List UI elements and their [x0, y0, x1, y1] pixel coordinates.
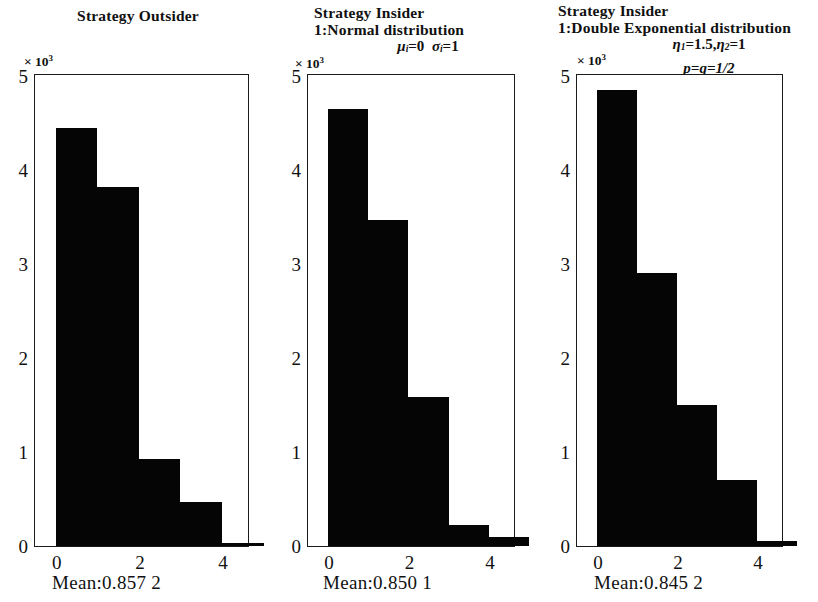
plot-area-insider-double-exp [576, 74, 783, 547]
panel-title-insider-double-exp: Strategy Insider 1:Double Exponential di… [558, 2, 818, 36]
x-axis-tick-label: 4 [485, 553, 495, 572]
histogram-bar [757, 541, 797, 546]
y-axis-tick-label: 5 [281, 67, 301, 86]
y-axis-tick-label: 2 [550, 349, 570, 368]
histogram-bar [139, 459, 181, 546]
exponent-power: 3 [49, 53, 54, 63]
panel-title-line-2: 1:Normal distribution [314, 21, 564, 38]
y-axis-tick-label: 2 [281, 349, 301, 368]
x-axis-tick-label: 0 [52, 553, 62, 572]
sigma-symbol: σ [432, 38, 440, 54]
chart-panel-insider-normal: Strategy Insider 1:Normal distribution μ… [278, 0, 550, 602]
y-axis-exponent-label: × 103 [24, 53, 53, 70]
histogram-bar [637, 273, 677, 546]
histogram-bar [180, 502, 222, 546]
distribution-parameters-double-exp: η1=1.5,η2=1 p=q=1/2 [606, 34, 812, 79]
x-axis-tick-label: 0 [324, 553, 334, 572]
histogram-bar [717, 480, 757, 546]
sigma-value: =1 [443, 38, 459, 54]
panel-title-insider-normal: Strategy Insider 1:Normal distribution [292, 4, 564, 38]
x-axis-tick-label: 2 [405, 553, 415, 572]
y-axis-tick-label: 3 [550, 255, 570, 274]
histogram-bar [489, 537, 529, 546]
histogram-bar [56, 128, 98, 546]
histogram-bar [449, 525, 489, 546]
x-axis-tick-label: 0 [593, 553, 603, 572]
plot-area-insider-normal [307, 74, 515, 547]
y-axis-tick-label: 3 [281, 255, 301, 274]
bar-series-outsider [35, 75, 248, 546]
eta-parameters-line: η1=1.5,η2=1 [672, 36, 745, 52]
histogram-bar [222, 543, 264, 546]
panel-title-outsider: Strategy Outsider [18, 7, 258, 24]
x-axis-tick-label: 4 [753, 553, 763, 572]
y-axis-tick-label: 2 [8, 349, 28, 368]
mean-caption-insider-normal: Mean:0.850 1 [323, 572, 432, 594]
y-axis-tick-label: 4 [550, 161, 570, 180]
y-axis-tick-label: 1 [281, 443, 301, 462]
panel-title-line-1: Strategy Outsider [18, 7, 258, 24]
y-axis-exponent-label: × 103 [577, 52, 606, 69]
eta1-symbol: η [672, 36, 680, 52]
y-axis-tick-label: 4 [8, 161, 28, 180]
y-axis-tick-label: 0 [281, 537, 301, 556]
exponent-power: 3 [320, 55, 325, 65]
histogram-bar [97, 187, 139, 546]
panel-title-line-1: Strategy Insider [558, 2, 818, 19]
y-axis-tick-label: 5 [550, 67, 570, 86]
y-axis-tick-label: 0 [8, 537, 28, 556]
mu-value: =0 [408, 38, 424, 54]
y-axis-tick-label: 1 [550, 443, 570, 462]
mean-caption-insider-double-exp: Mean:0.845 2 [594, 572, 703, 594]
y-axis-tick-label: 0 [550, 537, 570, 556]
bar-series-insider-normal [308, 75, 514, 546]
x-axis-tick-label: 4 [218, 553, 228, 572]
exponent-power: 3 [602, 52, 607, 62]
chart-panel-outsider: Strategy Outsider × 103 Mean:0.857 2 012… [0, 0, 278, 602]
y-axis-tick-label: 4 [281, 161, 301, 180]
panel-title-line-1: Strategy Insider [314, 4, 564, 21]
histogram-bar [328, 109, 368, 546]
distribution-parameters-normal: μi=0 σi=1 [348, 37, 508, 58]
histogram-bar [597, 90, 637, 546]
chart-panel-insider-double-exponential: Strategy Insider 1:Double Exponential di… [550, 0, 818, 602]
histogram-bar [368, 220, 408, 546]
histogram-bar [677, 405, 717, 546]
y-axis-tick-label: 1 [8, 443, 28, 462]
plot-area-outsider [34, 74, 249, 547]
mu-symbol: μ [397, 38, 405, 54]
y-axis-tick-label: 5 [8, 67, 28, 86]
bar-series-insider-double-exp [577, 75, 782, 546]
x-axis-tick-label: 2 [135, 553, 145, 572]
x-axis-tick-label: 2 [673, 553, 683, 572]
eta1-value: =1.5, [685, 36, 716, 52]
histogram-bar [408, 397, 448, 546]
eta2-value: =1 [729, 36, 745, 52]
y-axis-tick-label: 3 [8, 255, 28, 274]
eta2-symbol: η [717, 36, 725, 52]
mean-caption-outsider: Mean:0.857 2 [52, 572, 161, 594]
